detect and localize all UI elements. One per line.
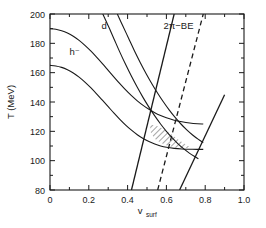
- x-tick-label: 0.8: [199, 195, 212, 205]
- h-minus-label: h⁻: [69, 46, 79, 57]
- svg-text:v: v: [138, 205, 143, 216]
- y-tick-label: 120: [30, 127, 45, 137]
- y-axis-title: T (MeV): [5, 85, 16, 119]
- y-tick-label: 100: [30, 156, 45, 166]
- y-tick-label: 160: [30, 68, 45, 78]
- x-axis-title: v surf: [138, 205, 157, 218]
- x-axis-title-subscript: surf: [146, 211, 157, 218]
- x-tick-label: 0: [47, 195, 52, 205]
- d-label: d: [101, 20, 106, 31]
- x-tick-label: 0.6: [160, 195, 173, 205]
- x-tick-label: 1.0: [238, 195, 251, 205]
- y-tick-label: 140: [30, 98, 45, 108]
- y-tick-label: 80: [35, 186, 45, 196]
- temperature-vs-surface-velocity-chart: 00.20.40.60.81.080100120140160180200 h⁻d…: [0, 0, 266, 228]
- two-pi-be-label: 2π−BE: [163, 20, 193, 31]
- figure-container: 00.20.40.60.81.080100120140160180200 h⁻d…: [0, 0, 266, 228]
- x-tick-label: 0.4: [121, 195, 134, 205]
- x-tick-label: 0.2: [83, 195, 96, 205]
- y-tick-label: 200: [30, 10, 45, 20]
- y-tick-label: 180: [30, 39, 45, 49]
